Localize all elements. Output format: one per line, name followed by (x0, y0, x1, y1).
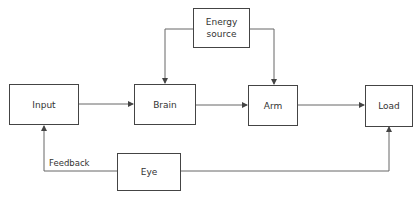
block-load-label: Load (378, 100, 400, 112)
block-input-label: Input (32, 99, 55, 111)
feedback-label: Feedback (49, 158, 89, 168)
block-arm: Arm (248, 85, 298, 126)
block-input: Input (9, 84, 79, 125)
arrow-eye-to-load (181, 127, 389, 171)
block-energy-label-line2: source (207, 28, 237, 40)
block-arm-label: Arm (264, 100, 282, 112)
block-eye: Eye (117, 153, 181, 191)
block-load: Load (365, 85, 413, 127)
block-eye-label: Eye (141, 166, 158, 178)
block-brain: Brain (134, 84, 196, 125)
block-energy-label-line1: Energy (206, 16, 238, 28)
arrow-energy-to-brain (165, 29, 193, 83)
arrow-energy-to-arm (250, 29, 274, 84)
block-energy-source: Energy source (193, 8, 250, 48)
block-brain-label: Brain (153, 99, 177, 111)
